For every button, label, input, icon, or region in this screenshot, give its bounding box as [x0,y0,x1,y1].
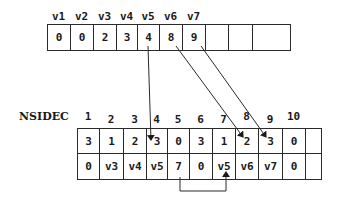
row2-cell-5: 7 [167,153,190,180]
top-cell-10 [252,24,291,51]
top-header-v3: v3 [93,10,116,23]
row2-cell-7: v5 [212,153,236,180]
row2-cell-10: 0 [282,153,306,180]
row2-cell-9: v7 [258,153,283,180]
top-cell-4: 3 [116,24,138,51]
row1-cell-9: 3 [258,128,283,154]
row2-cell-3: v4 [123,153,147,180]
index-9: 9 [258,113,282,126]
index-5: 5 [167,113,189,126]
row1-cell-10: 0 [282,128,306,154]
top-cell-3: 2 [93,24,117,51]
top-cell-2: 0 [70,24,94,51]
row2-cell-6: 0 [189,153,213,180]
top-header-v5: v5 [137,10,159,23]
index-1: 1 [77,110,99,123]
top-header-v2: v2 [70,10,93,23]
row2-cell-8: v6 [235,153,259,180]
top-cell-5: 4 [137,24,160,51]
top-cell-6: 8 [159,24,183,51]
row1-cell-2: 1 [99,128,124,154]
row2-cell-1: 0 [77,153,100,180]
top-cell-1: 0 [47,24,71,51]
nsidec-label: NSIDEC [19,110,69,123]
top-header-v7: v7 [182,10,205,23]
top-cell-8 [205,24,229,51]
top-cell-9 [228,24,253,51]
row1-cell-1: 3 [77,128,100,154]
index-3: 3 [123,113,146,126]
row1-cell-3: 2 [123,128,147,154]
row1-cell-5: 0 [167,128,190,154]
top-header-v6: v6 [159,10,182,23]
index-4: 4 [146,113,167,126]
index-2: 2 [99,113,123,126]
row1-cell-6: 3 [189,128,213,154]
row1-cell-7: 1 [212,128,236,154]
index-6: 6 [189,113,212,126]
top-header-v4: v4 [116,10,137,23]
row1-cell-4: 3 [146,128,168,154]
index-7: 7 [212,113,235,126]
index-10: 10 [282,110,305,123]
row2-cell-11 [305,153,322,180]
top-header-v1: v1 [47,10,70,23]
top-cell-7: 9 [182,24,206,51]
row2-cell-2: v3 [99,153,124,180]
row1-cell-8: 2 [235,128,259,154]
index-8: 8 [235,110,258,123]
row2-cell-4: v5 [146,153,168,180]
row1-cell-11 [305,128,322,154]
